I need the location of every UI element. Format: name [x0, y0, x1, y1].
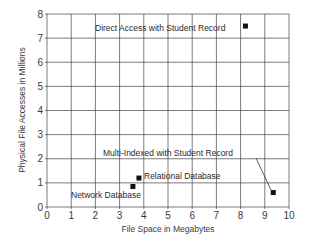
- x-tick-label: 2: [93, 210, 99, 221]
- data-points: [130, 24, 275, 195]
- y-tick-label: 7: [37, 33, 43, 44]
- data-point-marker: [136, 176, 141, 181]
- x-axis-label: File Space in Megabytes: [121, 224, 214, 234]
- x-tick-label: 5: [165, 210, 171, 221]
- y-tick-label: 0: [37, 202, 43, 213]
- y-axis-ticks: 012345678: [37, 9, 43, 213]
- label-relational: Relational Database: [144, 171, 221, 181]
- y-tick-label: 5: [37, 81, 43, 92]
- x-tick-label: 10: [283, 210, 295, 221]
- y-tick-label: 1: [37, 177, 43, 188]
- x-tick-label: 7: [214, 210, 220, 221]
- y-axis-label: Physical File Accesses in Millions: [17, 47, 27, 173]
- leader-line: [256, 158, 271, 190]
- x-tick-label: 1: [68, 210, 74, 221]
- scatter-chart: 012345678910 012345678 File Space in Meg…: [0, 0, 311, 246]
- label-multi-indexed: Multi-Indexed with Student Record: [103, 148, 233, 158]
- data-point-marker: [243, 24, 248, 29]
- x-tick-label: 8: [238, 210, 244, 221]
- y-tick-label: 8: [37, 9, 43, 20]
- label-direct-access: Direct Access with Student Record: [95, 23, 226, 33]
- x-tick-label: 9: [262, 210, 268, 221]
- x-tick-label: 3: [117, 210, 123, 221]
- x-axis-ticks: 012345678910: [44, 210, 295, 221]
- x-tick-label: 6: [189, 210, 195, 221]
- data-point-marker: [271, 190, 276, 195]
- label-network: Network Database: [71, 190, 141, 200]
- y-tick-label: 4: [37, 105, 43, 116]
- y-tick-label: 3: [37, 129, 43, 140]
- y-tick-label: 2: [37, 153, 43, 164]
- y-tick-label: 6: [37, 57, 43, 68]
- x-tick-label: 0: [44, 210, 50, 221]
- x-tick-label: 4: [141, 210, 147, 221]
- data-point-marker: [130, 184, 135, 189]
